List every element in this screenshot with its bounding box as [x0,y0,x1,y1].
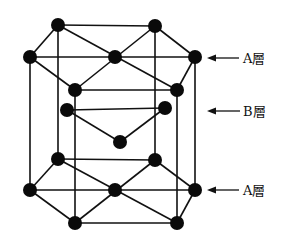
atom [113,135,127,149]
atom [170,216,184,230]
layer-label-middle: B層 [243,104,266,119]
atom [108,50,122,64]
atom [68,83,82,97]
atom [158,101,172,115]
label-middle-b: B層 [207,104,266,119]
layer-label-top: A層 [242,51,265,66]
atom [148,153,162,167]
atom [60,103,74,117]
atom [188,50,202,64]
label-bottom-a: A層 [207,183,265,198]
atom [51,18,65,32]
atom [23,183,37,197]
label-top-a: A層 [207,51,265,66]
atom [68,216,82,230]
bottom-a-layer-atoms [23,152,202,230]
atom [170,83,184,97]
atom [148,19,162,33]
hcp-structure-diagram: A層 B層 A層 [0,0,293,247]
atom [188,183,202,197]
atom [23,50,37,64]
atom [51,152,65,166]
atom [108,183,122,197]
layer-label-bottom: A層 [242,183,265,198]
